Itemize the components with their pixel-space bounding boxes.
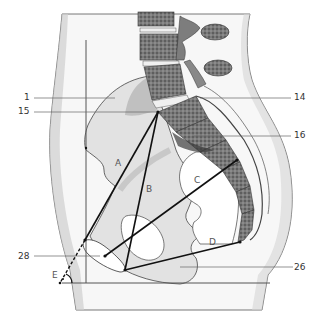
measurement-label-c: C	[194, 175, 200, 185]
callout-label-15: 15	[18, 106, 29, 116]
measurement-label-e: E	[52, 270, 58, 280]
callout-label-14: 14	[294, 92, 305, 102]
pelvis-diagram	[0, 0, 331, 328]
measurement-label-d: D	[209, 237, 216, 247]
callout-label-16: 16	[294, 130, 305, 140]
callout-label-28: 28	[18, 251, 29, 261]
callout-label-26: 26	[294, 262, 305, 272]
callout-label-1: 1	[24, 92, 30, 102]
measurement-label-a: A	[115, 158, 121, 168]
measurement-label-b: B	[146, 184, 152, 194]
